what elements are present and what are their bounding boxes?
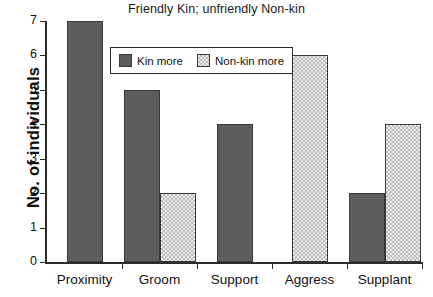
bar-kin-more	[124, 90, 160, 262]
x-axis-category-label: Supplant	[358, 272, 411, 287]
chart-legend: Kin more Non-kin more	[110, 47, 293, 74]
y-axis-tick: 3	[40, 159, 47, 160]
x-axis-category-label: Proximity	[57, 272, 113, 287]
legend-label-kin-more: Kin more	[137, 55, 183, 67]
chart-title: Friendly Kin; unfriendly Non-kin	[0, 2, 433, 16]
bar-kin-more	[67, 21, 103, 262]
y-axis-tick: 2	[40, 193, 47, 194]
bar-non-kin-more	[160, 193, 196, 262]
y-axis-tick: 1	[40, 228, 47, 229]
y-axis-tick-label: 3	[30, 152, 37, 165]
y-axis-tick: 5	[40, 90, 47, 91]
y-axis-tick-label: 4	[30, 117, 37, 130]
bar-kin-more	[217, 124, 253, 262]
legend-entry-non-kin-more: Non-kin more	[197, 54, 284, 67]
y-axis-title: No. of individuals	[24, 43, 43, 233]
x-axis-tick	[272, 262, 273, 269]
y-axis-tick-label: 2	[30, 186, 37, 199]
legend-swatch-non-kin-more-icon	[197, 54, 210, 67]
y-axis-tick-label: 5	[30, 83, 37, 96]
bar-non-kin-more	[292, 55, 328, 262]
legend-label-non-kin-more: Non-kin more	[215, 55, 284, 67]
y-axis-tick-label: 1	[30, 221, 37, 234]
y-axis-tick-label: 7	[30, 14, 37, 27]
x-axis-category-label: Aggress	[285, 272, 335, 287]
bar-non-kin-more	[385, 124, 421, 262]
y-axis-tick: 7	[40, 21, 47, 22]
x-axis-tick	[422, 262, 423, 269]
x-axis-tick	[347, 262, 348, 269]
x-axis-category-label: Groom	[139, 272, 180, 287]
x-axis-tick	[122, 262, 123, 269]
y-axis-tick: 4	[40, 124, 47, 125]
x-axis-category-label: Support	[211, 272, 258, 287]
y-axis-tick-label: 0	[30, 255, 37, 268]
legend-swatch-kin-more-icon	[119, 54, 132, 67]
legend-entry-kin-more: Kin more	[119, 54, 183, 67]
y-axis-tick: 0	[40, 262, 47, 263]
x-axis-tick	[197, 262, 198, 269]
y-axis-tick: 6	[40, 55, 47, 56]
y-axis-tick-label: 6	[30, 48, 37, 61]
bar-kin-more	[349, 193, 385, 262]
bar-chart: Friendly Kin; unfriendly Non-kin No. of …	[0, 0, 433, 297]
